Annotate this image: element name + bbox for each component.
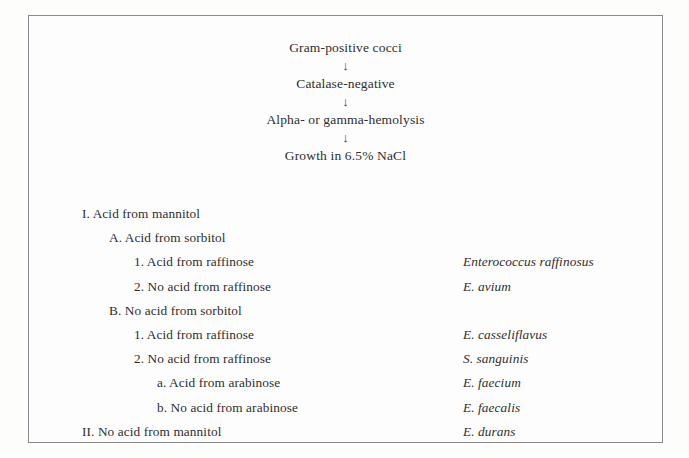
key-item-label: 1. Acid from raffinose (134, 250, 254, 274)
key-row: 1. Acid from raffinose Enterococcus raff… (29, 250, 662, 274)
key-row: II. No acid from mannitol E. durans (29, 420, 662, 444)
key-item-species: E. casseliflavus (463, 323, 547, 347)
down-arrow-icon: ↓ (29, 93, 662, 110)
key-item-label: A. Acid from sorbitol (109, 226, 226, 250)
key-item-species: E. faecalis (463, 396, 520, 420)
key-row: a. Acid from arabinose E. faecium (29, 371, 662, 395)
dichotomous-key-list: I. Acid from mannitol A. Acid from sorbi… (29, 202, 662, 444)
key-row: 2. No acid from raffinose E. avium (29, 275, 662, 299)
down-arrow-icon: ↓ (29, 129, 662, 146)
figure-page: Gram-positive cocci ↓ Catalase-negative … (0, 0, 689, 458)
key-row: B. No acid from sorbitol (29, 299, 662, 323)
key-item-label: 1. Acid from raffinose (134, 323, 254, 347)
key-item-label: I. Acid from mannitol (82, 202, 200, 226)
key-item-label: b. No acid from arabinose (157, 396, 298, 420)
identification-chain: Gram-positive cocci ↓ Catalase-negative … (29, 38, 662, 165)
key-item-label: 2. No acid from raffinose (134, 347, 271, 371)
figure-border-frame: Gram-positive cocci ↓ Catalase-negative … (28, 15, 663, 443)
key-row: b. No acid from arabinose E. faecalis (29, 396, 662, 420)
key-item-label: 2. No acid from raffinose (134, 275, 271, 299)
chain-step-growth-nacl: Growth in 6.5% NaCl (29, 146, 662, 165)
down-arrow-icon: ↓ (29, 57, 662, 74)
key-row: I. Acid from mannitol (29, 202, 662, 226)
key-item-species: Enterococcus raffinosus (463, 250, 594, 274)
key-item-species: E. avium (463, 275, 511, 299)
key-item-label: a. Acid from arabinose (157, 371, 280, 395)
chain-step-gram-positive-cocci: Gram-positive cocci (29, 38, 662, 57)
key-item-label: B. No acid from sorbitol (109, 299, 242, 323)
key-item-species: S. sanguinis (463, 347, 528, 371)
key-row: 1. Acid from raffinose E. casseliflavus (29, 323, 662, 347)
chain-step-hemolysis: Alpha- or gamma-hemolysis (29, 110, 662, 129)
chain-step-catalase-negative: Catalase-negative (29, 74, 662, 93)
key-row: 2. No acid from raffinose S. sanguinis (29, 347, 662, 371)
key-item-species: E. faecium (463, 371, 521, 395)
key-item-species: E. durans (463, 420, 516, 444)
key-item-label: II. No acid from mannitol (82, 420, 222, 444)
key-row: A. Acid from sorbitol (29, 226, 662, 250)
